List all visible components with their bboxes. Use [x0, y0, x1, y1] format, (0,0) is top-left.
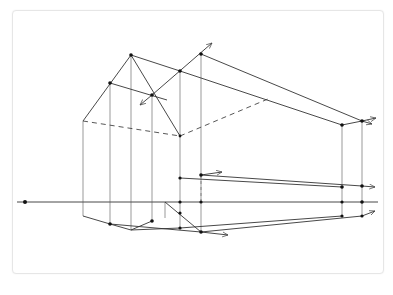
horizon-line — [17, 200, 378, 204]
perspective-diagram — [0, 0, 393, 295]
gable-roof — [83, 54, 362, 136]
construction-points — [108, 52, 364, 234]
wall-verticals — [83, 54, 362, 232]
vanishing-point-left — [23, 200, 27, 204]
dashed-hidden-edges — [83, 99, 268, 202]
ground-plane — [83, 175, 362, 232]
vanishing-direction-arrows — [140, 43, 376, 235]
